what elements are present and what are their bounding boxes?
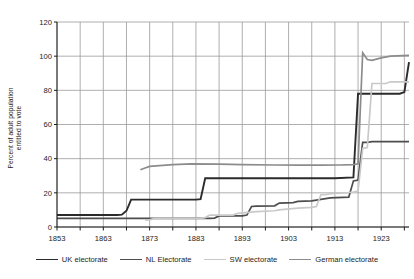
y-tick-label: 60 bbox=[44, 120, 52, 129]
x-tick-label: 1853 bbox=[49, 234, 66, 243]
y-tick-label: 0 bbox=[48, 223, 52, 232]
y-tick-label: 40 bbox=[44, 154, 52, 163]
x-tick-label: 1913 bbox=[326, 234, 343, 243]
y-tick-label: 80 bbox=[44, 86, 52, 95]
x-tick-label: 1893 bbox=[234, 234, 251, 243]
legend-item-1[interactable]: NL Electorate bbox=[114, 255, 198, 264]
y-tick-label: 120 bbox=[39, 18, 52, 27]
x-tick-label: 1863 bbox=[95, 234, 112, 243]
legend-line-swatch bbox=[36, 259, 58, 260]
x-tick-label: 1873 bbox=[141, 234, 158, 243]
x-tick-label: 1883 bbox=[187, 234, 204, 243]
x-tick-label: 1903 bbox=[280, 234, 297, 243]
legend-label: UK electorate bbox=[62, 255, 108, 264]
plot-area: 0204060801001201853186318731883189319031… bbox=[0, 0, 414, 249]
x-tick-label: 1923 bbox=[373, 234, 390, 243]
chart-legend: UK electorateNL ElectorateSW electorateG… bbox=[0, 249, 414, 269]
legend-item-3[interactable]: German electorate bbox=[283, 255, 384, 264]
legend-line-swatch bbox=[289, 259, 311, 260]
legend-item-0[interactable]: UK electorate bbox=[30, 255, 114, 264]
legend-line-swatch bbox=[204, 259, 226, 260]
legend-line-swatch bbox=[120, 259, 142, 260]
legend-item-2[interactable]: SW electorate bbox=[198, 255, 284, 264]
y-axis-label: Percent of adult population entitled to … bbox=[2, 28, 28, 228]
y-tick-label: 20 bbox=[44, 189, 52, 198]
y-axis-label-line-2: entitled to vote bbox=[15, 87, 23, 168]
legend-label: NL Electorate bbox=[146, 255, 192, 264]
y-tick-label: 100 bbox=[39, 52, 52, 61]
legend-label: SW electorate bbox=[230, 255, 278, 264]
voting-rights-line-chart: Percent of adult population entitled to … bbox=[0, 0, 414, 279]
legend-label: German electorate bbox=[315, 255, 378, 264]
